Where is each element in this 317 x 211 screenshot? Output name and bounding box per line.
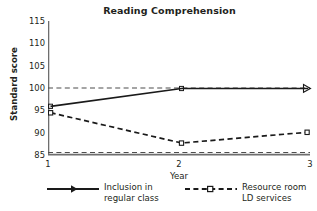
chart-legend: Inclusion in regular class Resource room… xyxy=(40,182,317,210)
series-resource-room-line xyxy=(51,113,308,143)
legend-swatch-solid-arrow-icon xyxy=(46,183,100,195)
y-tick-label-95: 95 xyxy=(19,106,45,114)
chart-figure: Reading Comprehension Standard score 115… xyxy=(0,0,317,211)
y-tick-label-105: 105 xyxy=(19,62,45,70)
y-tick-label-110: 110 xyxy=(19,39,45,47)
plot-svg xyxy=(48,21,314,161)
series-resource-room-marker-year2 xyxy=(179,141,183,145)
chart-title: Reading Comprehension xyxy=(0,5,317,16)
series-resource-room-marker-year3 xyxy=(305,130,309,134)
legend-item-inclusion: Inclusion in regular class xyxy=(46,182,159,204)
legend-item-resource-room: Resource room LD services xyxy=(184,182,306,204)
legend-label-inclusion: Inclusion in regular class xyxy=(104,182,159,204)
x-axis-title: Year xyxy=(48,171,310,181)
y-tick-label-90: 90 xyxy=(19,129,45,137)
series-resource-room-marker-year1 xyxy=(49,111,53,115)
series-inclusion-line xyxy=(51,89,309,107)
plot-area xyxy=(48,21,310,155)
y-tick-label-100: 100 xyxy=(19,84,45,92)
y-tick-label-115: 115 xyxy=(19,17,45,25)
y-axis-title: Standard score xyxy=(9,29,19,139)
legend-label-resource-room: Resource room LD services xyxy=(242,182,306,204)
legend-swatch-dashed-square-icon xyxy=(184,183,238,195)
